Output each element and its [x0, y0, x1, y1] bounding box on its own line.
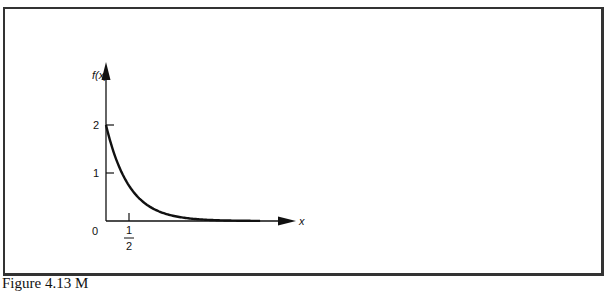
x-tick-label-numerator: 1 [126, 224, 132, 236]
x-axis-label: x [298, 215, 305, 227]
y-tick-label-1: 1 [93, 167, 99, 179]
y-axis-label: f(x) [92, 69, 108, 81]
y-tick-label-2: 2 [93, 119, 99, 131]
x-tick-label-denominator: 2 [126, 240, 132, 252]
x-axis-arrow-icon [278, 217, 296, 226]
figure-caption: Figure 4.13 M [2, 274, 88, 292]
curve-f-of-x [106, 125, 260, 221]
origin-label: 0 [92, 225, 98, 237]
